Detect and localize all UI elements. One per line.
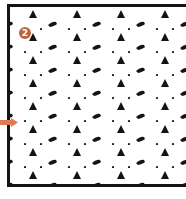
pattern-frame bbox=[7, 4, 186, 187]
pointer-arrow-icon bbox=[0, 118, 18, 127]
motif-pattern bbox=[10, 7, 186, 184]
step-number-badge: 2 bbox=[19, 27, 31, 39]
